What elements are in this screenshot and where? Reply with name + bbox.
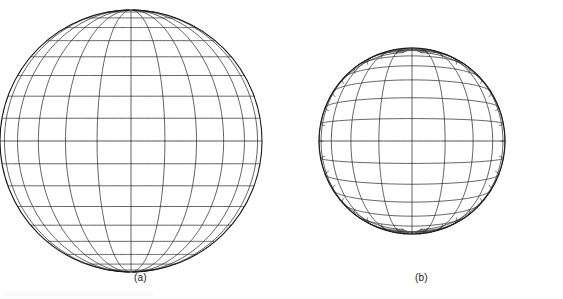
globe-figure: (a) (b) <box>0 0 563 299</box>
caption-a: (a) <box>0 272 281 283</box>
globe-a-graticule <box>0 0 281 281</box>
globe-b-graticule <box>281 0 562 281</box>
caption-b: (b) <box>281 272 562 283</box>
globe-panel-a: (a) <box>0 0 281 299</box>
globe-panel-b: (b) <box>281 0 562 299</box>
page-edge-artifact <box>3 292 153 296</box>
